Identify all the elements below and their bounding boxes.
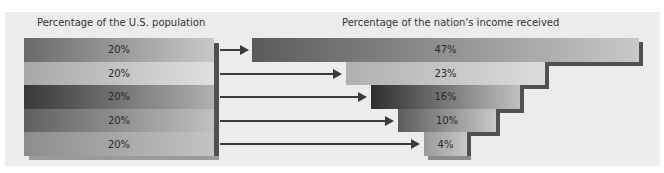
income-shadow-2b (520, 85, 549, 89)
arrow-3-icon (220, 96, 360, 98)
left-axis-label: Percentage of the U.S. population (37, 17, 205, 28)
income-shadow-1b (545, 62, 643, 66)
population-block-shadow (214, 43, 219, 160)
arrow-2-icon (220, 73, 335, 75)
arrow-5-icon (220, 143, 413, 145)
right-axis-label: Percentage of the nation's income receiv… (342, 17, 559, 28)
population-bar-1: 20% (24, 38, 214, 62)
income-bar-2: 23% (346, 62, 545, 86)
income-shadow-5b (428, 156, 471, 160)
income-bar-3: 16% (371, 85, 520, 109)
population-bar-5: 20% (24, 132, 214, 156)
population-bar-2: 20% (24, 62, 214, 86)
arrow-1-icon (220, 49, 242, 51)
income-shadow-4b (467, 132, 500, 136)
income-bar-4: 10% (398, 109, 496, 133)
arrow-4-icon (220, 120, 387, 122)
income-bar-1: 47% (252, 38, 639, 62)
population-block-shadow-bottom (29, 156, 219, 160)
population-bar-4: 20% (24, 109, 214, 133)
population-bar-3: 20% (24, 85, 214, 109)
income-bar-5: 4% (424, 132, 467, 156)
income-shadow-3b (496, 109, 524, 113)
